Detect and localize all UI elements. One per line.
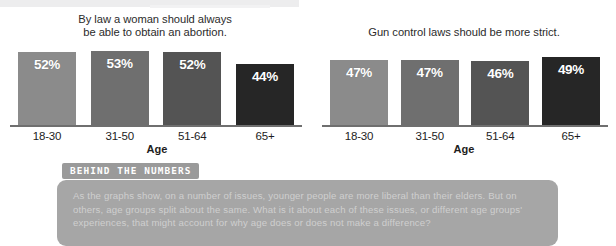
- chart-title-line-2: be able to obtain an abortion.: [6, 26, 304, 39]
- bar-value-label: 47%: [417, 65, 443, 80]
- bar-slot: 44%: [236, 41, 294, 127]
- callout-tab-label: BEHIND THE NUMBERS: [62, 163, 199, 179]
- bar[interactable]: 53%: [91, 51, 149, 127]
- bar-slot: 47%: [401, 41, 459, 127]
- bar-value-label: 47%: [346, 65, 372, 80]
- bar-value-label: 52%: [179, 57, 205, 72]
- chart-title: By law a woman should always be able to …: [6, 10, 304, 39]
- x-tick-label: 31-50: [91, 130, 149, 142]
- x-axis-tick-labels: 18-30 31-50 51-64 65+: [6, 130, 304, 142]
- callout-body-text: As the graphs show, on a number of issue…: [73, 189, 544, 230]
- x-axis-tick-labels: 18-30 31-50 51-64 65+: [318, 130, 610, 142]
- bar[interactable]: 49%: [542, 57, 600, 127]
- x-tick-label: 51-64: [163, 130, 221, 142]
- chart-title: Gun control laws should be more strict.: [318, 10, 610, 39]
- x-tick-label: 18-30: [18, 130, 76, 142]
- bar-value-label: 52%: [34, 57, 60, 72]
- bar[interactable]: 47%: [330, 60, 388, 127]
- bar-value-label: 46%: [487, 66, 513, 81]
- bar-value-label: 53%: [107, 56, 133, 71]
- bar[interactable]: 52%: [163, 52, 221, 127]
- bar-value-label: 44%: [252, 69, 278, 84]
- x-tick-label: 51-64: [471, 130, 529, 142]
- bar[interactable]: 44%: [236, 64, 294, 127]
- bar-slot: 46%: [471, 41, 529, 127]
- x-axis-line: [10, 125, 302, 127]
- bar-group: 47% 47% 46% 49%: [318, 41, 610, 127]
- x-tick-label: 18-30: [330, 130, 388, 142]
- x-axis-title: Age: [6, 143, 304, 155]
- plot-area: 47% 47% 46% 49%: [318, 41, 610, 127]
- bar-slot: 53%: [91, 41, 149, 127]
- plot-area: 52% 53% 52% 44%: [6, 41, 304, 127]
- chart-title-line-1: By law a woman should always: [6, 13, 304, 26]
- bar-slot: 49%: [542, 41, 600, 127]
- bar-slot: 52%: [18, 41, 76, 127]
- chart-gun-control: Gun control laws should be more strict. …: [318, 10, 610, 162]
- x-tick-label: 31-50: [401, 130, 459, 142]
- bar-slot: 47%: [330, 41, 388, 127]
- callout-body: As the graphs show, on a number of issue…: [57, 180, 558, 246]
- figure-root: By law a woman should always be able to …: [0, 0, 616, 246]
- chart-title-line-1: Gun control laws should be more strict.: [318, 26, 610, 39]
- bar[interactable]: 52%: [18, 52, 76, 127]
- bar-group: 52% 53% 52% 44%: [6, 41, 304, 127]
- bar-slot: 52%: [163, 41, 221, 127]
- bar-value-label: 49%: [558, 62, 584, 77]
- x-axis-line: [322, 125, 608, 127]
- chart-abortion: By law a woman should always be able to …: [6, 10, 304, 162]
- x-tick-label: 65+: [542, 130, 600, 142]
- cropped-header-sliver: [150, 5, 270, 8]
- x-axis-title: Age: [318, 143, 610, 155]
- x-tick-label: 65+: [236, 130, 294, 142]
- bar[interactable]: 46%: [471, 61, 529, 127]
- bar[interactable]: 47%: [401, 60, 459, 127]
